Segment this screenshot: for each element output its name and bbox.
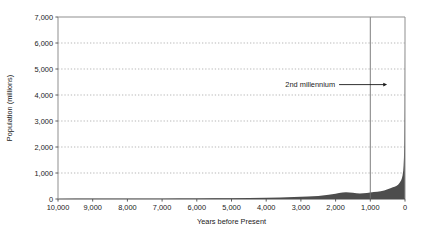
y-tick-label: 2,000 — [35, 143, 54, 152]
x-tick-label: 10,000 — [47, 203, 70, 212]
y-tick-label: 5,000 — [35, 65, 54, 74]
x-tick-label: 3,000 — [292, 203, 311, 212]
x-tick-label: 5,000 — [222, 203, 241, 212]
y-tick-label: 7,000 — [35, 13, 54, 22]
plot-area-background — [58, 17, 405, 199]
x-axis-title: Years before Present — [197, 217, 266, 226]
population-area-chart: 10,0009,0008,0007,0006,0005,0004,0003,00… — [0, 0, 425, 244]
x-tick-label: 0 — [403, 203, 407, 212]
y-tick-label: 3,000 — [35, 117, 54, 126]
x-tick-label: 8,000 — [118, 203, 137, 212]
y-tick-label: 4,000 — [35, 91, 54, 100]
y-tick-label: 6,000 — [35, 39, 54, 48]
x-tick-label: 2,000 — [326, 203, 345, 212]
x-tick-label: 1,000 — [361, 203, 380, 212]
y-tick-label: 1,000 — [35, 169, 54, 178]
x-tick-label: 7,000 — [153, 203, 172, 212]
y-tick-label: 0 — [49, 195, 53, 204]
y-axis-title: Population (millions) — [5, 75, 14, 142]
x-tick-label: 4,000 — [257, 203, 276, 212]
x-tick-label: 6,000 — [188, 203, 207, 212]
annotation-label: 2nd millennium — [285, 80, 335, 89]
x-tick-label: 9,000 — [83, 203, 102, 212]
